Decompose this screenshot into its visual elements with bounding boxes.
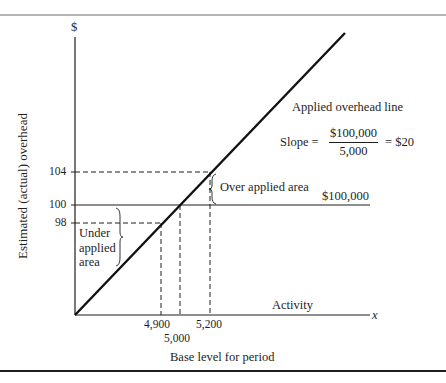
under-applied-line-2: applied xyxy=(79,241,116,256)
x-axis-symbol: x xyxy=(372,309,378,322)
y-axis-label: Estimated (actual) overhead xyxy=(15,113,31,259)
slope-denominator: 5,000 xyxy=(339,143,367,158)
under-applied-label: Under applied area xyxy=(79,226,116,270)
applied-overhead-line-label: Applied overhead line xyxy=(292,101,403,114)
x-axis-inline-label: Activity xyxy=(272,299,313,312)
y-axis-symbol: $ xyxy=(71,21,77,34)
slope-prefix: Slope = xyxy=(280,136,319,149)
over-applied-label: Over applied area xyxy=(220,181,309,194)
y-tick-label-104: 104 xyxy=(49,166,66,178)
slope-numerator: $100,000 xyxy=(329,127,378,143)
x-tick-label-5200: 5,200 xyxy=(196,319,222,331)
slope-fraction: $100,000 5,000 xyxy=(329,127,378,157)
y-tick-label-100: 100 xyxy=(49,199,66,211)
slope-result: = $20 xyxy=(385,136,414,149)
x-tick-label-4900: 4,900 xyxy=(144,319,170,331)
under-applied-brace xyxy=(116,208,123,266)
under-applied-line-1: Under xyxy=(79,226,116,241)
x-axis-label: Base level for period xyxy=(170,351,274,364)
y-tick-label-98: 98 xyxy=(55,217,67,229)
x-tick-label-5000: 5,000 xyxy=(164,333,190,345)
budget-line-label: $100,000 xyxy=(322,190,369,203)
under-applied-line-3: area xyxy=(79,255,116,270)
